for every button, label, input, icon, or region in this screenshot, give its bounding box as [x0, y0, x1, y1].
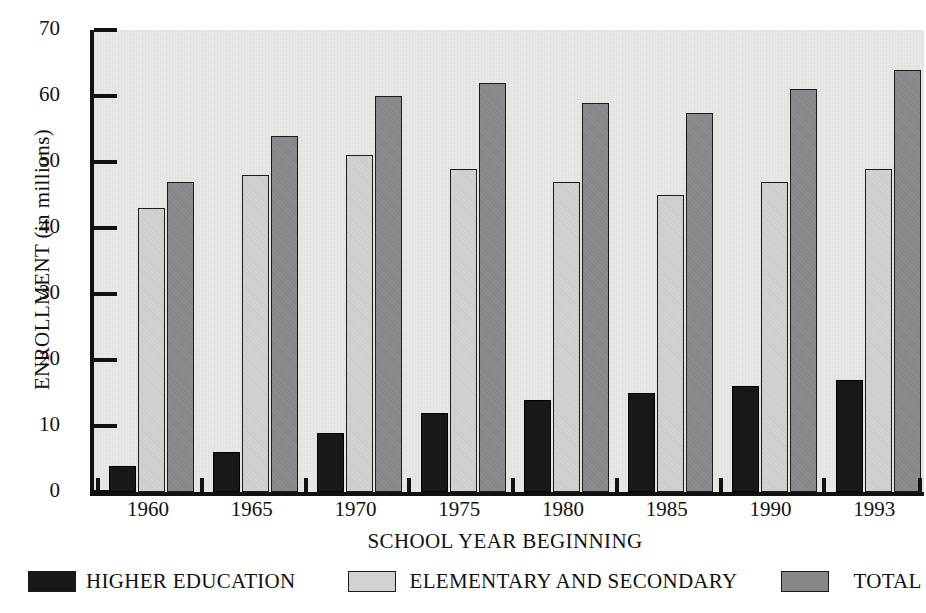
bar-es-1985 [657, 195, 684, 492]
legend-swatch-icon [781, 571, 829, 592]
x-tick-mark-1975 [407, 478, 411, 492]
y-tick-label: 10 [0, 412, 60, 437]
bar-tt-1965 [271, 136, 298, 492]
bar-group-1985 [628, 30, 713, 492]
x-tick-label-1980: 1980 [503, 497, 623, 522]
x-tick-mark-1980 [511, 478, 515, 492]
y-tick-label: 60 [0, 82, 60, 107]
legend-item-2: TOTAL [781, 569, 921, 594]
x-tick-label-1985: 1985 [607, 497, 727, 522]
bar-group-1960 [109, 30, 194, 492]
bar-he-1980 [524, 400, 551, 492]
bar-es-1960 [138, 208, 165, 492]
bar-es-1965 [242, 175, 269, 492]
x-tick-mark-1970 [304, 478, 308, 492]
x-tick-label-1965: 1965 [192, 497, 312, 522]
x-tick-label-1990: 1990 [710, 497, 830, 522]
bar-he-1965 [213, 452, 240, 492]
bar-es-1970 [346, 155, 373, 492]
bar-group-1975 [421, 30, 506, 492]
y-tick-label: 50 [0, 148, 60, 173]
bar-he-1960 [109, 466, 136, 492]
bar-tt-1970 [375, 96, 402, 492]
bar-tt-1993 [894, 70, 921, 492]
bar-group-1980 [524, 30, 609, 492]
x-tick-mark-1990 [719, 478, 723, 492]
y-tick-label: 20 [0, 346, 60, 371]
x-tick-mark-1960 [96, 478, 100, 492]
bar-group-1990 [732, 30, 817, 492]
y-tick-label: 40 [0, 214, 60, 239]
bar-es-1990 [761, 182, 788, 492]
bar-he-1985 [628, 393, 655, 492]
enrollment-bar-chart: ENROLLMENT (in millions) 010203040506070… [0, 0, 926, 613]
x-tick-label-1975: 1975 [399, 497, 519, 522]
legend-label: TOTAL [853, 569, 921, 594]
legend-label: ELEMENTARY AND SECONDARY [410, 569, 738, 594]
chart-legend: HIGHER EDUCATIONELEMENTARY AND SECONDARY… [28, 566, 908, 596]
legend-swatch-icon [348, 571, 396, 592]
x-tick-label-1970: 1970 [295, 497, 415, 522]
bar-tt-1975 [479, 83, 506, 492]
x-axis-title: SCHOOL YEAR BEGINNING [90, 529, 920, 554]
bar-group-1970 [317, 30, 402, 492]
legend-swatch-icon [28, 571, 76, 592]
bar-he-1970 [317, 433, 344, 492]
bar-group-1965 [213, 30, 298, 492]
y-tick-label: 70 [0, 16, 60, 41]
x-tick-mark-1985 [615, 478, 619, 492]
y-tick-label: 30 [0, 280, 60, 305]
x-tick-mark-1993 [822, 478, 826, 492]
legend-label: HIGHER EDUCATION [86, 569, 296, 594]
bar-tt-1985 [686, 113, 713, 493]
bar-he-1993 [836, 380, 863, 492]
x-tick-label-1960: 1960 [88, 497, 208, 522]
plot-area: 010203040506070 [90, 30, 924, 496]
legend-item-1: ELEMENTARY AND SECONDARY [348, 569, 738, 594]
bar-es-1993 [865, 169, 892, 492]
bar-es-1980 [553, 182, 580, 492]
y-tick-label: 0 [0, 478, 60, 503]
bar-tt-1980 [582, 103, 609, 492]
y-axis-title: ENROLLMENT (in millions) [30, 50, 55, 470]
bar-es-1975 [450, 169, 477, 492]
bar-tt-1990 [790, 89, 817, 492]
bar-group-1993 [836, 30, 921, 492]
x-tick-mark-end [918, 478, 922, 492]
bar-he-1975 [421, 413, 448, 492]
bar-tt-1960 [167, 182, 194, 492]
legend-item-0: HIGHER EDUCATION [28, 569, 296, 594]
x-tick-label-1993: 1993 [814, 497, 926, 522]
x-tick-mark-1965 [200, 478, 204, 492]
bar-he-1990 [732, 386, 759, 492]
